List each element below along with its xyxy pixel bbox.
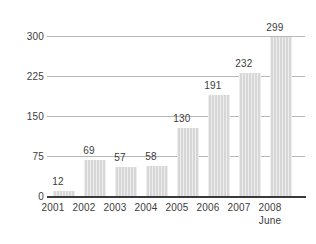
bar-chart: 300 225 150 75 0 12 69 57 58 130 191 232… xyxy=(0,0,316,244)
bar-value-2006: 191 xyxy=(192,80,234,91)
y-tick-label-300: 300 xyxy=(4,31,44,42)
y-tick-label-150: 150 xyxy=(4,111,44,122)
bar-2002[interactable] xyxy=(84,160,106,197)
bar-2005[interactable] xyxy=(177,128,199,197)
bar-value-2001: 12 xyxy=(37,176,79,187)
y-tick-label-225: 225 xyxy=(4,71,44,82)
bar-2007[interactable] xyxy=(239,73,261,197)
bar-value-2005: 130 xyxy=(161,113,203,124)
gridline-75 xyxy=(47,156,305,157)
gridline-300 xyxy=(47,36,305,37)
y-tick-label-0: 0 xyxy=(4,191,44,202)
x-tick-label-2008: 2008 xyxy=(249,202,291,213)
x-tick-sublabel-2008: June xyxy=(249,215,291,226)
y-tick-label-75: 75 xyxy=(4,151,44,162)
bar-2006[interactable] xyxy=(208,95,230,197)
bar-2003[interactable] xyxy=(115,167,137,197)
bar-2008[interactable] xyxy=(270,37,292,197)
bar-2004[interactable] xyxy=(146,166,168,197)
bar-value-2007: 232 xyxy=(223,58,265,69)
bar-value-2008: 299 xyxy=(254,22,296,33)
x-axis-line xyxy=(47,196,306,198)
gridline-225 xyxy=(47,76,305,77)
bar-value-2004: 58 xyxy=(130,151,172,162)
